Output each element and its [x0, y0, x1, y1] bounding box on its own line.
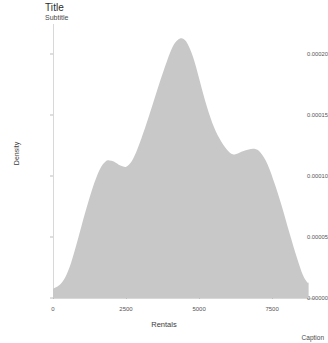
- chart-caption: Caption: [302, 334, 324, 341]
- x-axis-label: Rentals: [0, 320, 328, 329]
- x-axis-line: [53, 298, 315, 299]
- x-tick-label: 5000: [192, 306, 205, 312]
- density-chart: Title Subtitle Density Rentals 0.000000.…: [0, 0, 328, 343]
- x-tick-label: 0: [51, 306, 54, 312]
- x-tick-label: 2500: [119, 306, 132, 312]
- plot-area: [53, 24, 313, 298]
- chart-title: Title: [45, 2, 64, 13]
- chart-subtitle: Subtitle: [45, 14, 68, 21]
- density-area-path: [53, 24, 313, 298]
- y-axis-label: Density: [13, 124, 20, 184]
- x-tick-label: 7500: [265, 306, 278, 312]
